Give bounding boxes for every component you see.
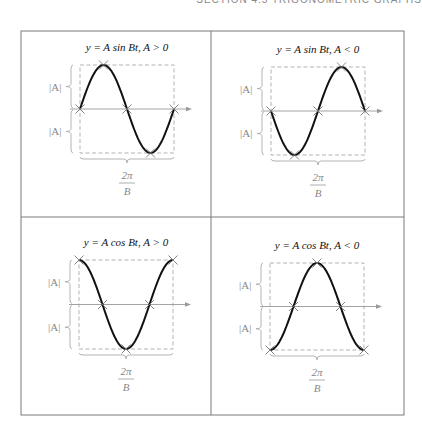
trig-graphs-diagram: y = A sin Bt, A > 0|A||A|2πBy = A sin Bt… xyxy=(0,0,422,434)
period-numerator: 2π xyxy=(121,169,133,181)
panel-sin-neg: y = A sin Bt, A < 0|A||A|2πB xyxy=(240,43,383,199)
period-brace xyxy=(271,159,365,165)
graph-title: y = A cos Bt, A > 0 xyxy=(83,236,169,248)
outer-frame xyxy=(21,31,404,415)
amplitude-brace-lower xyxy=(66,110,73,153)
period-numerator: 2π xyxy=(120,365,132,377)
graph-title: y = A sin Bt, A > 0 xyxy=(85,41,169,53)
axis-arrow-icon xyxy=(185,302,191,306)
period-denominator: B xyxy=(123,381,130,393)
amplitude-label-lower: |A| xyxy=(240,127,252,139)
period-brace xyxy=(79,353,173,359)
period-brace xyxy=(80,157,174,163)
axis-arrow-icon xyxy=(186,107,192,111)
panel-sin-pos: y = A sin Bt, A > 0|A||A|2πB xyxy=(49,41,192,197)
period-numerator: 2π xyxy=(311,366,323,378)
amplitude-label-lower: |A| xyxy=(48,321,60,333)
panel-cos-pos: y = A cos Bt, A > 0|A||A|2πB xyxy=(48,236,191,393)
graph-title: y = A sin Bt, A < 0 xyxy=(276,43,360,55)
amplitude-brace-lower xyxy=(256,308,263,351)
amplitude-brace-lower xyxy=(65,306,72,350)
graph-title: y = A cos Bt, A < 0 xyxy=(274,239,360,251)
period-denominator: B xyxy=(315,187,322,199)
period-denominator: B xyxy=(314,382,321,394)
panel-grid-frame xyxy=(21,31,404,415)
amplitude-label-upper: |A| xyxy=(49,81,61,93)
panel-cos-neg: y = A cos Bt, A < 0|A||A|2πB xyxy=(239,239,382,394)
amplitude-label-lower: |A| xyxy=(49,125,61,137)
amplitude-label-upper: |A| xyxy=(239,279,251,291)
period-denominator: B xyxy=(124,185,131,197)
amplitude-label-upper: |A| xyxy=(48,276,60,288)
amplitude-brace-upper xyxy=(257,67,264,110)
amplitude-brace-upper xyxy=(65,260,72,304)
axis-arrow-icon xyxy=(377,109,383,113)
axis-arrow-icon xyxy=(376,304,382,308)
amplitude-label-upper: |A| xyxy=(240,83,252,95)
amplitude-brace-upper xyxy=(256,263,263,306)
amplitude-brace-upper xyxy=(66,65,73,108)
amplitude-brace-lower xyxy=(257,112,264,155)
period-numerator: 2π xyxy=(312,171,324,183)
period-brace xyxy=(270,354,364,360)
amplitude-label-lower: |A| xyxy=(239,322,251,334)
